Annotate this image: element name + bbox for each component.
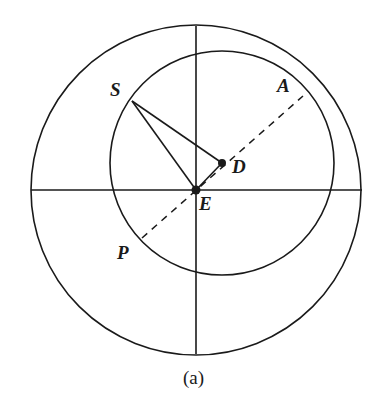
label-E: E	[199, 194, 212, 213]
apse-line	[142, 96, 303, 238]
segment-E-D	[196, 163, 222, 190]
segment-S-E	[132, 101, 196, 190]
label-S: S	[110, 80, 121, 99]
label-A: A	[277, 76, 290, 95]
figure-container: S A D E P (a)	[0, 0, 387, 411]
figure-caption: (a)	[0, 368, 387, 387]
label-D: D	[232, 157, 246, 176]
label-P: P	[117, 243, 129, 262]
point-marker-D	[218, 159, 226, 167]
segment-S-D	[132, 101, 222, 163]
geometry-diagram	[0, 0, 387, 411]
